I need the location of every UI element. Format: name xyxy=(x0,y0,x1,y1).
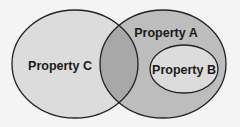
label-property-b: Property B xyxy=(152,63,216,77)
label-property-c: Property C xyxy=(28,59,92,73)
label-property-a: Property A xyxy=(134,26,197,40)
